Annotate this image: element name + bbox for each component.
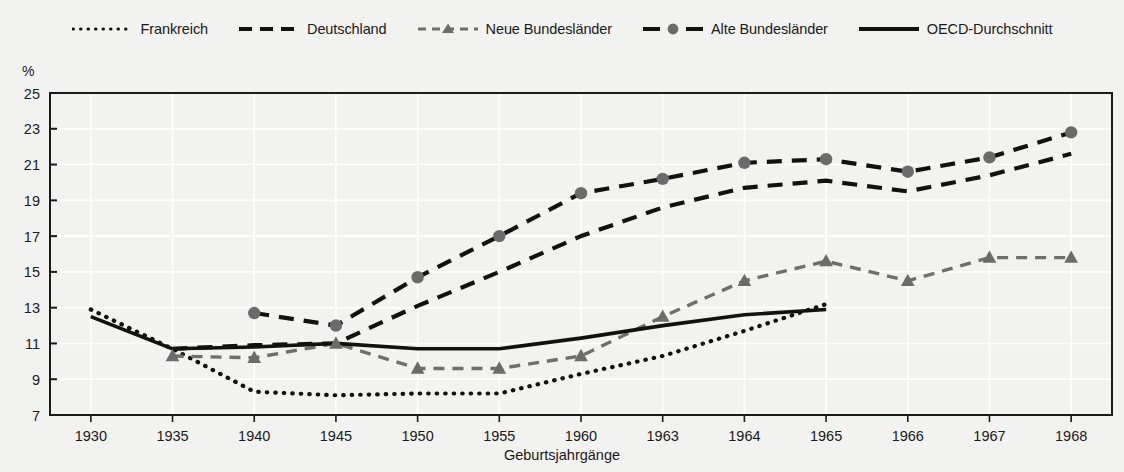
- x-tick-label: 1965: [810, 428, 842, 444]
- gridlines: [50, 93, 1112, 415]
- data-point-marker: [411, 271, 423, 283]
- x-tick-label: 1950: [401, 428, 433, 444]
- y-tick-label: 23: [24, 121, 40, 137]
- data-point-marker: [493, 230, 505, 242]
- y-tick-labels: 791113151719212325: [24, 86, 40, 424]
- x-tick-label: 1967: [973, 428, 1005, 444]
- x-tick-label: 1960: [565, 428, 597, 444]
- plot-area: 791113151719212325 193019351940194519501…: [0, 0, 1124, 472]
- data-point-marker: [1065, 126, 1077, 138]
- x-axis-title: Geburtsjahrgänge: [0, 447, 1124, 463]
- x-tick-label: 1964: [728, 428, 760, 444]
- x-tick-labels: 1930193519401945195019551960196319641965…: [75, 428, 1088, 444]
- data-point-marker: [902, 166, 914, 178]
- y-tick-label: 15: [24, 264, 40, 280]
- y-tick-label: 21: [24, 157, 40, 173]
- data-point-marker: [983, 151, 995, 163]
- x-tick-label: 1945: [320, 428, 352, 444]
- data-point-marker: [248, 307, 260, 319]
- x-tick-label: 1930: [75, 428, 107, 444]
- data-point-marker: [656, 173, 668, 185]
- chart-svg: 791113151719212325 193019351940194519501…: [0, 0, 1124, 472]
- data-point-marker: [330, 319, 342, 331]
- x-tick-label: 1968: [1055, 428, 1087, 444]
- y-tick-label: 11: [25, 336, 40, 352]
- x-tick-label: 1955: [483, 428, 515, 444]
- y-tick-label: 17: [24, 229, 40, 245]
- y-tick-label: 19: [24, 193, 40, 209]
- y-tick-label: 25: [24, 86, 40, 102]
- y-tick-label: 7: [32, 408, 40, 424]
- data-point-marker: [738, 157, 750, 169]
- x-tick-label: 1940: [238, 428, 270, 444]
- data-point-marker: [820, 153, 832, 165]
- x-tick-label: 1963: [647, 428, 679, 444]
- x-tick-label: 1935: [156, 428, 188, 444]
- y-tick-label: 9: [32, 372, 40, 388]
- y-tick-label: 13: [24, 300, 40, 316]
- data-point-marker: [575, 187, 587, 199]
- x-tick-label: 1966: [892, 428, 924, 444]
- chart-figure: Frankreich Deutschland Neue Bundesländer: [0, 0, 1124, 472]
